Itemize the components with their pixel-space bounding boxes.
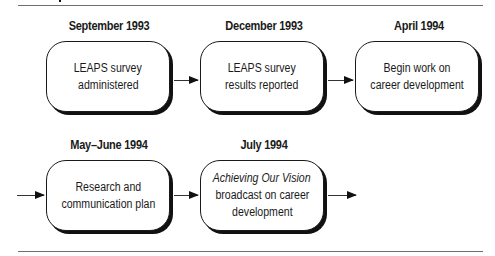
step-box-career-development-work: Begin work on career development xyxy=(355,41,479,112)
arrow-right-icon xyxy=(328,195,356,196)
step-date-april-1994: April 1994 xyxy=(357,19,480,33)
arrow-right-icon xyxy=(17,195,44,196)
step-text-line: communication plan xyxy=(61,196,155,213)
bottom-rule xyxy=(18,251,483,252)
step-text-line: LEAPS survey xyxy=(74,60,142,77)
step-text-line: development xyxy=(232,204,292,221)
step-text-line: broadcast on career xyxy=(215,187,309,204)
step-date-december-1993: December 1993 xyxy=(202,19,325,33)
step-text-line: LEAPS survey xyxy=(228,60,296,77)
step-date-may-june-1994: May–June 1994 xyxy=(47,138,170,152)
arrow-right-icon xyxy=(328,80,353,81)
top-rule xyxy=(18,5,483,6)
arrow-right-icon xyxy=(174,80,198,81)
step-date-september-1993: September 1993 xyxy=(47,19,170,33)
broadcast-title: Achieving Our Vision xyxy=(213,170,311,187)
step-box-results-reported: LEAPS survey results reported xyxy=(200,41,324,112)
step-text-line: results reported xyxy=(225,77,298,94)
step-box-research-plan: Research and communication plan xyxy=(46,160,170,231)
clipped-heading-fragment xyxy=(59,0,61,2)
step-text-line: Begin work on xyxy=(384,60,451,77)
step-box-broadcast: Achieving Our Vision broadcast on career… xyxy=(200,160,324,231)
step-text-line: administered xyxy=(78,77,138,94)
step-text-line: career development xyxy=(370,77,463,94)
step-date-july-1994: July 1994 xyxy=(202,138,325,152)
step-box-survey-administered: LEAPS survey administered xyxy=(46,41,170,112)
step-text-line: Research and xyxy=(75,179,141,196)
arrow-right-icon xyxy=(174,195,198,196)
